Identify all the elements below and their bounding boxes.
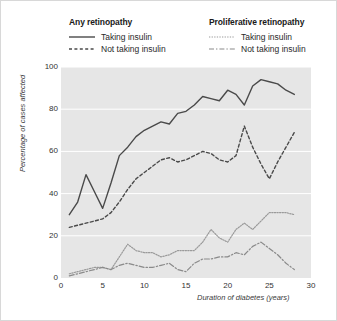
chart-figure: Any retinopathy Taking insulin Not takin…	[0, 0, 337, 321]
x-axis-tick-label: 30	[299, 281, 323, 290]
x-axis-tick-label: 0	[49, 281, 73, 290]
x-axis-tick-label: 5	[91, 281, 115, 290]
data-series-line	[69, 126, 294, 227]
data-series-line	[69, 213, 294, 274]
x-axis-tick-label: 15	[174, 281, 198, 290]
data-series-line	[69, 80, 294, 215]
plot-area	[61, 67, 311, 278]
x-axis-tick-label: 10	[132, 281, 156, 290]
x-axis-tick-label: 20	[216, 281, 240, 290]
x-axis-tick-label: 25	[257, 281, 281, 290]
data-series-line	[69, 242, 294, 276]
plot-svg	[61, 67, 311, 278]
